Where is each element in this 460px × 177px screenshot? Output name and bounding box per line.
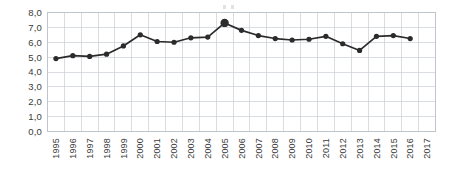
y-tick-label: 2,0 [28, 96, 42, 107]
x-tick-label: 2008 [270, 138, 280, 159]
data-point-marker [53, 56, 58, 61]
y-tick-label: 7,0 [28, 22, 42, 33]
data-point-marker [121, 43, 126, 48]
x-tick-label: 2010 [304, 138, 314, 159]
data-point-marker [205, 34, 210, 39]
data-point-marker [87, 54, 92, 59]
data-point-marker [104, 52, 109, 57]
x-tick-label: 1996 [68, 138, 78, 159]
y-tick-label: 4,0 [28, 66, 42, 77]
data-point-marker [391, 33, 396, 38]
data-point-marker [70, 53, 75, 58]
data-point-marker-highlighted [220, 19, 228, 27]
data-point-marker [408, 36, 413, 41]
x-tick-label: 2001 [152, 138, 162, 159]
x-tick-label: 2014 [372, 138, 382, 159]
y-tick-label: 1,0 [28, 111, 42, 122]
data-point-marker [323, 34, 328, 39]
x-tick-label: 2003 [186, 138, 196, 159]
gridlines-horizontal [48, 27, 436, 116]
chart-canvas: 0,01,02,03,04,05,06,07,08,0 199519961997… [0, 0, 460, 177]
x-tick-label: 2005 [220, 138, 230, 159]
x-tick-label: 2017 [422, 138, 432, 159]
y-tick-label: 8,0 [28, 7, 42, 18]
data-point-marker [138, 32, 143, 37]
x-tick-label: 2015 [389, 138, 399, 159]
data-point-marker [188, 35, 193, 40]
y-tick-label: 3,0 [28, 81, 42, 92]
data-point-marker [374, 34, 379, 39]
x-tick-label: 2012 [338, 138, 348, 159]
y-tick-label: 0,0 [28, 126, 42, 137]
data-point-marker [155, 39, 160, 44]
x-tick-label: 1999 [119, 138, 129, 159]
faint-label-artifact [223, 5, 234, 9]
data-point-marker [239, 28, 244, 33]
x-tick-label: 2006 [237, 138, 247, 159]
data-point-marker [256, 33, 261, 38]
data-point-marker [290, 37, 295, 42]
x-axis-tick-labels: 1995199619971998199920002001200220032004… [51, 138, 432, 159]
x-tick-label: 2016 [405, 138, 415, 159]
x-tick-label: 1998 [102, 138, 112, 159]
x-tick-label: 2000 [135, 138, 145, 159]
y-axis-tick-labels: 0,01,02,03,04,05,06,07,08,0 [28, 7, 42, 137]
x-tick-label: 2002 [169, 138, 179, 159]
x-tick-label: 2007 [254, 138, 264, 159]
x-tick-label: 2004 [203, 138, 213, 159]
x-tick-label: 2013 [355, 138, 365, 159]
y-tick-label: 6,0 [28, 37, 42, 48]
data-point-marker [171, 40, 176, 45]
y-tick-label: 5,0 [28, 52, 42, 63]
line-chart: 0,01,02,03,04,05,06,07,08,0 199519961997… [0, 0, 460, 177]
data-point-marker [306, 37, 311, 42]
x-tick-label: 1997 [85, 138, 95, 159]
data-point-marker [273, 36, 278, 41]
data-point-marker [357, 48, 362, 53]
x-tick-label: 1995 [51, 138, 61, 159]
data-point-marker [340, 41, 345, 46]
x-tick-label: 2009 [287, 138, 297, 159]
x-tick-label: 2011 [321, 138, 331, 158]
